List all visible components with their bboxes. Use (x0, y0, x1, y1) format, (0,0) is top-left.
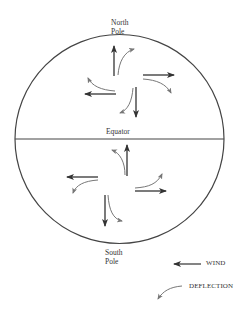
south-pole-label-line2: Pole (105, 257, 123, 266)
legend-wind-label: WIND (206, 259, 225, 267)
north-pole-label-line2: Pole (111, 27, 129, 36)
deflection-arrow-south-icon (120, 88, 133, 113)
south-pole-label-line1: South (105, 248, 123, 257)
south-pole-label: South Pole (105, 248, 123, 266)
equator-label: Equator (106, 127, 130, 136)
southern-hemisphere-arrows (67, 145, 166, 226)
deflection-arrow-east-icon (143, 79, 171, 93)
deflection-arrow-north-icon (112, 150, 125, 175)
deflection-arrow-west-icon (73, 180, 98, 193)
deflection-arrow-north-icon (118, 49, 134, 75)
deflection-arrow-south-icon (108, 195, 122, 221)
north-pole-label-line1: North (111, 18, 129, 27)
deflection-arrow-east-icon (135, 174, 162, 188)
northern-hemisphere-arrows (85, 46, 174, 117)
legend-deflection-arrow-icon (158, 286, 182, 299)
coriolis-diagram (0, 0, 248, 325)
legend-deflection-label: DEFLECTION (189, 282, 233, 290)
north-pole-label: North Pole (111, 18, 129, 36)
deflection-arrow-west-icon (88, 78, 115, 91)
